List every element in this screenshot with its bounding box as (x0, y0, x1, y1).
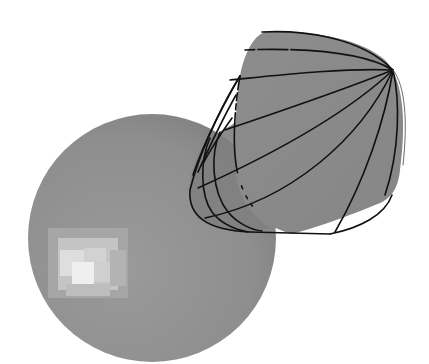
diagram-canvas (0, 0, 429, 364)
highlight-patch (66, 284, 110, 296)
highlight-patch (84, 248, 106, 262)
highlight-patch (110, 250, 126, 286)
highlight-patch (94, 262, 112, 282)
sphere-highlight (48, 228, 128, 298)
highlight-patch (72, 262, 94, 284)
